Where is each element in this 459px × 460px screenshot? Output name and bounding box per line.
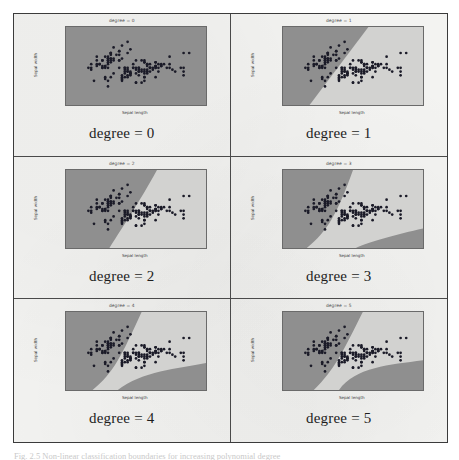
panel-caption: degree = 0 [89,125,154,142]
panel-caption: degree = 3 [306,268,371,285]
x-tick-mark [408,105,409,106]
y-tick-mark [282,371,283,372]
y-tick-mark [65,192,66,193]
plot-degree-2: degree = 25.04.54.03.53.02.52.01.51.0456… [29,161,215,265]
y-tick-mark [282,247,283,248]
panel-caption: degree = 5 [306,410,371,427]
y-tick-mark [282,68,283,69]
plot-axes: 5.04.54.03.53.02.52.01.51.045678 [282,169,424,249]
x-tick-mark [107,390,108,391]
y-axis-label: Sepal width [249,338,254,362]
y-axis-label: Sepal width [249,53,254,77]
y-tick-mark [282,362,283,363]
plot-title: degree = 0 [29,18,215,23]
panel-degree-4: degree = 45.04.54.03.53.02.52.01.51.0456… [14,299,231,442]
x-tick-mark [135,390,136,391]
y-tick-mark [65,247,66,248]
plot-axes: 5.04.54.03.53.02.52.01.51.045678 [65,26,207,106]
plot-degree-5: degree = 55.04.54.03.53.02.52.01.51.0456… [246,303,432,407]
y-tick-mark [65,381,66,382]
plot-title: degree = 1 [246,18,432,23]
y-tick-mark [282,353,283,354]
y-tick-mark [65,353,66,354]
panel-caption: degree = 1 [306,125,371,142]
plot-axes: 5.04.54.03.53.02.52.01.51.045678 [65,311,207,391]
y-tick-mark [282,334,283,335]
x-axis-label: Sepal length [282,110,422,115]
plot-axes: 5.04.54.03.53.02.52.01.51.045678 [282,311,424,391]
plot-title: degree = 2 [29,161,215,166]
y-tick-mark [65,344,66,345]
panel-degree-2: degree = 25.04.54.03.53.02.52.01.51.0456… [14,157,231,300]
panel-degree-1: degree = 15.04.54.03.53.02.52.01.51.0456… [231,14,448,157]
x-tick-mark [296,390,297,391]
panel-caption: degree = 4 [89,410,154,427]
x-tick-mark [191,105,192,106]
y-tick-mark [65,325,66,326]
y-tick-mark [65,30,66,31]
y-tick-mark [65,201,66,202]
x-tick-mark [408,248,409,249]
y-tick-mark [65,390,66,391]
y-tick-mark [282,49,283,50]
x-axis-label: Sepal length [282,253,422,258]
y-tick-mark [282,220,283,221]
x-tick-mark [79,390,80,391]
x-tick-mark [163,105,164,106]
plot-degree-1: degree = 15.04.54.03.53.02.52.01.51.0456… [246,18,432,122]
x-tick-mark [79,248,80,249]
x-tick-mark [107,105,108,106]
y-axis-label: Sepal width [249,196,254,220]
x-tick-mark [163,390,164,391]
y-tick-mark [65,49,66,50]
plot-axes: 5.04.54.03.53.02.52.01.51.045678 [65,169,207,249]
x-tick-mark [380,105,381,106]
y-tick-mark [65,371,66,372]
x-tick-mark [135,248,136,249]
y-tick-mark [282,344,283,345]
x-tick-mark [352,248,353,249]
y-axis-label: Sepal width [32,53,37,77]
y-tick-mark [282,182,283,183]
x-tick-mark [324,248,325,249]
x-tick-mark [135,105,136,106]
x-tick-mark [380,390,381,391]
x-tick-mark [191,248,192,249]
y-tick-mark [282,381,283,382]
y-tick-mark [65,334,66,335]
x-tick-mark [296,248,297,249]
figure-caption: Fig. 2.5 Non-linear classification bound… [14,451,434,460]
x-axis-label: Sepal length [65,395,205,400]
y-tick-mark [65,105,66,106]
y-tick-mark [282,192,283,193]
y-tick-mark [282,77,283,78]
y-tick-mark [65,210,66,211]
figure-frame: degree = 05.04.54.03.53.02.52.01.51.0456… [13,13,448,443]
y-tick-mark [282,30,283,31]
x-tick-mark [191,390,192,391]
x-tick-mark [324,390,325,391]
plot-degree-0: degree = 05.04.54.03.53.02.52.01.51.0456… [29,18,215,122]
y-tick-mark [282,390,283,391]
plot-title: degree = 3 [246,161,432,166]
y-tick-mark [65,95,66,96]
plot-title: degree = 5 [246,303,432,308]
y-tick-mark [282,201,283,202]
plot-degree-3: degree = 35.04.54.03.53.02.52.01.51.0456… [246,161,432,265]
plot-title: degree = 4 [29,303,215,308]
y-tick-mark [65,173,66,174]
scanned-page: degree = 05.04.54.03.53.02.52.01.51.0456… [0,0,459,460]
y-tick-mark [282,58,283,59]
y-tick-mark [65,40,66,41]
y-tick-mark [65,86,66,87]
y-tick-mark [282,40,283,41]
y-tick-mark [65,58,66,59]
x-tick-mark [408,390,409,391]
x-tick-mark [324,105,325,106]
y-tick-mark [65,238,66,239]
plot-degree-4: degree = 45.04.54.03.53.02.52.01.51.0456… [29,303,215,407]
x-tick-mark [107,248,108,249]
panel-degree-5: degree = 55.04.54.03.53.02.52.01.51.0456… [231,299,448,442]
panel-degree-3: degree = 35.04.54.03.53.02.52.01.51.0456… [231,157,448,300]
y-tick-mark [282,173,283,174]
